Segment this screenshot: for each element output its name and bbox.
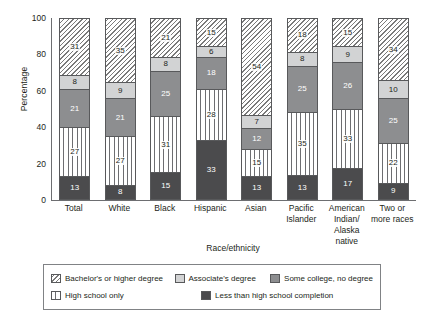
bar-segment-bachelor[interactable]: 34 xyxy=(379,19,408,80)
bar-segment-value: 27 xyxy=(69,148,80,156)
bar-segment-lessthan[interactable]: 9 xyxy=(379,183,408,199)
bar-column[interactable]: 547121513 xyxy=(241,18,272,200)
legend-swatch-somecollege xyxy=(270,274,280,283)
bar-column[interactable]: 35921278 xyxy=(105,18,136,200)
bar-segment-value: 21 xyxy=(115,114,126,122)
bar-segment-highschool[interactable]: 22 xyxy=(379,143,408,183)
legend-item-bachelor[interactable]: Bachelor's or higher degree xyxy=(51,274,175,283)
legend-item-associate[interactable]: Associate's degree xyxy=(175,274,271,283)
bar-segment-lessthan[interactable]: 13 xyxy=(288,175,317,199)
bar-segment-associate[interactable]: 9 xyxy=(106,82,135,98)
bar-segment-associate[interactable]: 7 xyxy=(242,115,271,127)
bar-segment-highschool[interactable]: 27 xyxy=(106,136,135,185)
bar-segment-lessthan[interactable]: 13 xyxy=(242,176,271,199)
y-axis-tick-label: 80 xyxy=(18,50,46,59)
bar-segment-value: 34 xyxy=(388,46,399,54)
bar-segment-highschool[interactable]: 27 xyxy=(60,127,89,176)
bar-segment-value: 15 xyxy=(342,29,353,37)
legend-label: Associate's degree xyxy=(189,275,256,283)
bar-segment-somecollege[interactable]: 12 xyxy=(242,128,271,149)
bar-column[interactable]: 341025229 xyxy=(378,18,409,200)
bar-segment-highschool[interactable]: 33 xyxy=(333,109,362,168)
bar-segment-value: 8 xyxy=(72,78,78,86)
stacked-bar[interactable]: 156182833 xyxy=(196,18,227,200)
bar-segment-lessthan[interactable]: 15 xyxy=(151,172,180,199)
bar-segment-value: 25 xyxy=(388,117,399,125)
stacked-bar[interactable]: 341025229 xyxy=(378,18,409,200)
stacked-bar[interactable]: 188253513 xyxy=(287,18,318,200)
bar-segment-lessthan[interactable]: 33 xyxy=(197,140,226,199)
bar-segment-value: 18 xyxy=(297,31,308,39)
legend-item-somecollege[interactable]: Some college, no degree xyxy=(270,274,373,283)
bar-segment-somecollege[interactable]: 21 xyxy=(106,98,135,136)
x-axis-tick-label: Black xyxy=(142,203,188,214)
stacked-bar[interactable]: 159263317 xyxy=(332,18,363,200)
y-axis-tick-label: 40 xyxy=(18,123,46,132)
bar-segment-highschool[interactable]: 35 xyxy=(288,112,317,176)
bar-segment-somecollege[interactable]: 25 xyxy=(288,66,317,111)
bar-segment-value: 10 xyxy=(388,86,399,94)
bar-segment-value: 8 xyxy=(163,60,169,68)
bar-segment-lessthan[interactable]: 17 xyxy=(333,168,362,199)
x-axis-tick-label: Two ormore races xyxy=(370,203,416,225)
bar-segment-value: 35 xyxy=(115,47,126,55)
bar-segment-associate[interactable]: 8 xyxy=(151,57,180,71)
bar-segment-value: 35 xyxy=(297,140,308,148)
bar-segment-value: 8 xyxy=(299,55,305,63)
stacked-bar[interactable]: 318212713 xyxy=(59,18,90,200)
bar-segment-bachelor[interactable]: 54 xyxy=(242,19,271,115)
x-axis-title: Race/ethnicity xyxy=(51,243,415,253)
legend-label: Less than high school completion xyxy=(215,292,333,300)
bar-segment-somecollege[interactable]: 18 xyxy=(197,57,226,89)
bar-segment-lessthan[interactable]: 13 xyxy=(60,176,89,199)
bar-segment-highschool[interactable]: 28 xyxy=(197,89,226,139)
bar-column[interactable]: 218253115 xyxy=(150,18,181,200)
bar-column[interactable]: 159263317 xyxy=(332,18,363,200)
bar-column[interactable]: 156182833 xyxy=(196,18,227,200)
bar-segment-value: 26 xyxy=(342,82,353,90)
bar-segment-somecollege[interactable]: 25 xyxy=(151,71,180,116)
legend-swatch-lessthan xyxy=(201,291,211,300)
bar-segment-value: 22 xyxy=(388,159,399,167)
bar-segment-value: 8 xyxy=(117,188,123,196)
bar-segment-lessthan[interactable]: 8 xyxy=(106,185,135,199)
bar-column[interactable]: 188253513 xyxy=(287,18,318,200)
bar-segment-value: 7 xyxy=(254,118,260,126)
bar-segment-value: 31 xyxy=(160,141,171,149)
bar-segment-associate[interactable]: 9 xyxy=(333,46,362,62)
bar-segment-bachelor[interactable]: 15 xyxy=(333,19,362,46)
x-axis-tick-label: Hispanic xyxy=(188,203,234,214)
legend-swatch-highschool xyxy=(51,291,61,300)
bar-segment-associate[interactable]: 8 xyxy=(288,52,317,67)
x-axis-tick-label: AmericanIndian/Alaska native xyxy=(324,203,370,247)
bar-segment-bachelor[interactable]: 31 xyxy=(60,19,89,75)
bar-segment-somecollege[interactable]: 21 xyxy=(60,89,89,127)
bar-segment-value: 21 xyxy=(160,34,171,42)
stacked-bar[interactable]: 218253115 xyxy=(150,18,181,200)
y-axis-tick-label: 60 xyxy=(18,87,46,96)
bar-segment-somecollege[interactable]: 26 xyxy=(333,62,362,109)
legend-item-highschool[interactable]: High school only xyxy=(51,291,201,300)
y-axis-ticks: 020406080100 xyxy=(18,0,46,332)
bar-segment-value: 13 xyxy=(251,184,262,192)
bar-segment-value: 15 xyxy=(251,159,262,167)
bar-segment-value: 9 xyxy=(345,51,351,59)
bar-segment-bachelor[interactable]: 35 xyxy=(106,19,135,82)
bar-segment-bachelor[interactable]: 21 xyxy=(151,19,180,57)
bar-segment-highschool[interactable]: 31 xyxy=(151,116,180,172)
bar-segment-associate[interactable]: 10 xyxy=(379,80,408,98)
stacked-bar[interactable]: 547121513 xyxy=(241,18,272,200)
bar-column[interactable]: 318212713 xyxy=(59,18,90,200)
bar-segment-bachelor[interactable]: 18 xyxy=(288,19,317,52)
bar-segment-value: 15 xyxy=(206,29,217,37)
bar-segment-highschool[interactable]: 15 xyxy=(242,149,271,176)
bar-segment-somecollege[interactable]: 25 xyxy=(379,98,408,143)
bar-segment-value: 54 xyxy=(251,63,262,71)
stacked-bar[interactable]: 35921278 xyxy=(105,18,136,200)
legend-item-lessthan[interactable]: Less than high school completion xyxy=(201,291,333,300)
bar-segment-associate[interactable]: 6 xyxy=(197,46,226,57)
bar-segment-bachelor[interactable]: 15 xyxy=(197,19,226,46)
bar-segment-associate[interactable]: 8 xyxy=(60,75,89,89)
x-axis-tick-label: Asian xyxy=(233,203,279,214)
bar-segment-value: 31 xyxy=(69,43,80,51)
